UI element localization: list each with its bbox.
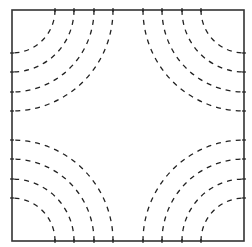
- contour-arc-bottom-right: [201, 198, 244, 241]
- contour-arc-top-right: [143, 10, 244, 111]
- contour-arc-bottom-right: [182, 179, 244, 241]
- contour-arc-top-left: [12, 10, 55, 53]
- contour-arcs: [12, 10, 244, 241]
- contour-arc-bottom-right: [143, 140, 244, 241]
- contour-arc-bottom-left: [12, 198, 55, 241]
- contour-arc-bottom-left: [12, 140, 113, 241]
- contour-arc-bottom-left: [12, 179, 74, 241]
- contour-arc-top-right: [182, 10, 244, 72]
- plot-frame: [12, 10, 244, 241]
- contour-diagram: [0, 0, 252, 247]
- contour-arc-top-left: [12, 10, 74, 72]
- contour-arc-top-left: [12, 10, 113, 111]
- edge-ticks: [10, 8, 246, 243]
- contour-arc-top-right: [201, 10, 244, 53]
